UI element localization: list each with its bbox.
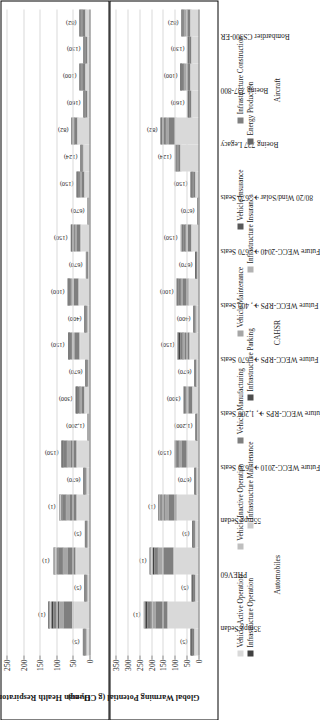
bar-segment: [152, 601, 155, 628]
stacked-bar-high[interactable]: (150): [61, 440, 90, 467]
stacked-bar-high[interactable]: (300): [183, 386, 199, 413]
bar-value-label: (5): [74, 530, 81, 537]
legend-item[interactable]: Infrastructure Maintenance: [246, 400, 254, 528]
y-axis-tick-label: 0: [86, 659, 95, 681]
legend-item[interactable]: Vehicle Inactive Operation: [236, 443, 244, 550]
plot-area-top: (5)(1)(5)(1)(5)(1)(670)(150)(1,200)(300)…: [7, 9, 90, 655]
bar-segment: [77, 494, 90, 521]
legend-item[interactable]: Infrastructure Operation: [246, 528, 254, 656]
bar-segment: [77, 117, 90, 144]
y-axis-tick-mark: [198, 655, 199, 659]
category-axis-area: 35mpg SedanPHEV6055mpg SedanFuture WECC-…: [218, 0, 295, 720]
bar-value-label: (100): [159, 288, 173, 295]
bar-value-label: (670): [69, 261, 83, 268]
stacked-bar-high[interactable]: (300): [75, 386, 90, 413]
y-axis-tick-mark: [89, 655, 90, 659]
stacked-bar-low[interactable]: (160): [187, 90, 199, 117]
stacked-bar-high[interactable]: (82): [181, 9, 199, 36]
y-axis-tick-label: 0: [195, 659, 204, 681]
bar-value-label: (82): [58, 126, 69, 133]
bar-segment: [79, 278, 90, 305]
stacked-bar-low[interactable]: (130): [187, 36, 199, 63]
legend-item[interactable]: Energy Production: [246, 16, 254, 144]
bar-segment: [74, 332, 79, 359]
stacked-bar-low[interactable]: (124): [80, 144, 90, 171]
bar-series-top: (5)(1)(5)(1)(5)(1)(670)(150)(1,200)(300)…: [7, 9, 90, 655]
bar-value-label: (150): [51, 342, 65, 349]
y-axis-tick-mark: [6, 655, 7, 659]
legend-item[interactable]: Infrastructure Parking: [246, 272, 254, 400]
bar-segment: [188, 440, 199, 467]
bar-value-label: (150): [60, 180, 74, 187]
bar-value-label: (1): [48, 503, 55, 510]
stacked-bar-high[interactable]: (100): [79, 63, 90, 90]
y-axis-tick-mark: [39, 655, 40, 659]
y-axis-tick-mark: [127, 655, 128, 659]
stacked-bar-high[interactable]: (150): [67, 332, 90, 359]
bar-segment: [80, 332, 90, 359]
legend-swatch-icon: [247, 394, 253, 400]
y-axis-tick-label: 150: [159, 659, 168, 681]
y-axis-title-bottom-wrap: Global Warming Potential (g CO₂-eq): [110, 697, 199, 711]
gridline: [186, 9, 187, 655]
y-axis-tick-label: 100: [52, 659, 61, 681]
bar-segment: [74, 601, 90, 628]
group-label-text: CAHSR: [270, 171, 284, 494]
bar-segment: [168, 601, 199, 628]
stacked-bar-high[interactable]: (100): [67, 278, 90, 305]
gridline: [115, 9, 116, 655]
category-slot: (1,200)(300): [7, 386, 90, 440]
y-axis-tick-mark: [115, 655, 116, 659]
plot-area-bottom: (5)(1)(5)(1)(5)(1)(670)(150)(1,200)(300)…: [116, 9, 199, 655]
legend-item[interactable]: Vehicle Insurance: [236, 123, 244, 230]
bar-segment: [63, 547, 67, 574]
stacked-bar-high[interactable]: (82): [79, 9, 90, 36]
bar-value-label: (1): [42, 557, 49, 564]
stacked-bar-high[interactable]: (1): [52, 547, 90, 574]
legend-swatch-icon: [247, 650, 253, 656]
group-label: Automobiles: [270, 494, 284, 656]
group-label-text: Automobiles: [270, 494, 284, 656]
y-axis-title-bottom: Global Warming Potential (g CO₂-eq): [68, 692, 199, 701]
stacked-bar-high[interactable]: (82): [71, 117, 90, 144]
stacked-bar-high[interactable]: (1): [158, 494, 199, 521]
stacked-bar-high[interactable]: (1): [58, 494, 90, 521]
stacked-bar-high[interactable]: (150): [177, 332, 199, 359]
bar-segment: [73, 278, 78, 305]
bar-value-label: (82): [66, 19, 77, 26]
stacked-bar-high[interactable]: (150): [180, 224, 199, 251]
bar-value-label: (670): [177, 476, 191, 483]
bar-segment: [189, 278, 199, 305]
stacked-bar-high[interactable]: (82): [160, 117, 199, 144]
gridline: [127, 9, 128, 655]
legend-label: Vehicle Maintenance: [236, 267, 244, 327]
legend-item[interactable]: Vehicle Maintenance: [236, 229, 244, 336]
legend-label: Vehicle Manufacturing: [236, 368, 244, 434]
gridline: [39, 9, 40, 655]
stacked-bar-high[interactable]: (1): [48, 601, 90, 628]
legend-item[interactable]: Infrastructure Insurance: [246, 144, 254, 272]
gridline: [89, 9, 90, 655]
stacked-bar-high[interactable]: (100): [180, 63, 199, 90]
bar-value-label: (5): [73, 584, 80, 591]
legend-item[interactable]: Vehicle Active Operation: [236, 549, 244, 656]
category-slot: (670)(150): [7, 171, 90, 225]
category-slot: (130)(82): [7, 9, 90, 63]
bar-value-label: (670): [178, 261, 192, 268]
group-label-text: Aircraft: [270, 9, 284, 171]
y-axis-tick-label: 350: [112, 659, 121, 681]
gridline: [72, 9, 73, 655]
bar-value-label: (300): [166, 395, 180, 402]
legend-item[interactable]: Vehicle Manufacturing: [236, 336, 244, 443]
legend-label: Vehicle Active Operation: [236, 574, 244, 647]
gridline: [162, 9, 163, 655]
gridline: [6, 9, 7, 655]
bar-segment: [177, 494, 199, 521]
group-label-row: AutomobilesCAHSRAircraft: [270, 9, 284, 655]
stacked-bar-high[interactable]: (150): [76, 171, 90, 198]
y-axis-tick-label: 150: [36, 659, 45, 681]
category-slot: (670)(150): [7, 440, 90, 494]
bar-segment: [180, 144, 199, 171]
bar-value-label: (1,200): [65, 422, 83, 429]
legend-item[interactable]: Infrastructure Construction: [236, 16, 244, 123]
